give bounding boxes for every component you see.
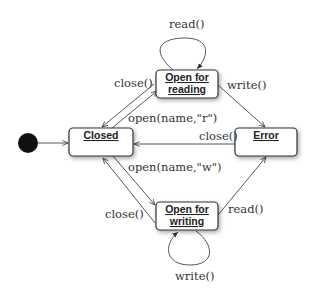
label-error-close: close() [199,129,238,143]
state-open-writing-label-line1: Open for [165,203,209,215]
state-open-writing-label-line2: writing [169,215,204,227]
label-reading-close: close() [114,76,153,90]
label-writing-close: close() [105,207,144,221]
initial-state-node [18,133,38,153]
label-reading-write: write() [227,78,266,92]
label-open-w: open(name,"w") [128,160,222,174]
state-closed-label: Closed [83,129,118,141]
label-writing-read: read() [228,202,264,216]
label-write-self-loop: write() [175,269,214,283]
state-open-for-reading: Open for reading [156,70,218,98]
label-open-r: open(name,"r") [128,111,217,125]
state-open-for-writing: Open for writing [156,202,218,230]
transition-reading-self-loop [160,38,206,70]
state-open-reading-label-line1: Open for [165,71,209,83]
state-error: Error [235,128,297,156]
state-error-label: Error [253,129,279,141]
label-read-self-loop: read() [169,17,205,31]
state-open-reading-label-line2: reading [168,83,206,95]
state-closed: Closed [69,128,133,156]
state-diagram: Closed Open for reading Error Open for w… [0,0,314,298]
transition-writing-self-loop [169,231,210,265]
